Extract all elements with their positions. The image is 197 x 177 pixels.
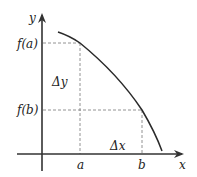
- y-axis-label: y: [28, 11, 36, 25]
- x-axis-label: x: [179, 158, 186, 172]
- x-tick-a: a: [77, 158, 84, 172]
- function-diagram: y x f(a) f(b) a b Δy Δx: [0, 0, 197, 177]
- function-curve: [58, 32, 162, 151]
- delta-y-label: Δy: [51, 75, 68, 89]
- x-tick-b: b: [138, 158, 146, 172]
- y-tick-fa: f(a): [16, 37, 38, 51]
- delta-x-label: Δx: [109, 139, 126, 153]
- y-tick-fb: f(b): [16, 103, 39, 117]
